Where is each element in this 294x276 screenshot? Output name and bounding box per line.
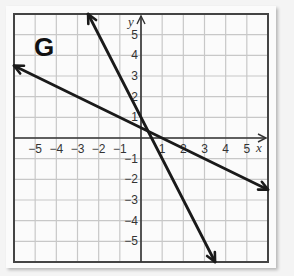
coordinate-plane: −5−4−3−2−11234554321−1−2−3−4−5 G x y (0, 0, 294, 276)
x-tick-label: 5 (243, 142, 250, 156)
y-axis-label: y (126, 14, 134, 29)
y-tick-label: −5 (124, 234, 138, 248)
y-tick-label: −1 (124, 152, 138, 166)
x-tick-label: 3 (201, 142, 208, 156)
y-tick-label: 5 (131, 28, 138, 42)
y-tick-label: −3 (124, 193, 138, 207)
y-tick-label: 3 (131, 69, 138, 83)
y-tick-label: 4 (131, 48, 138, 62)
x-tick-label: −3 (71, 142, 85, 156)
x-tick-label: −4 (49, 142, 63, 156)
x-tick-label: −2 (92, 142, 106, 156)
y-tick-label: −4 (124, 214, 138, 228)
y-tick-label: −2 (124, 172, 138, 186)
x-axis-label: x (255, 140, 262, 155)
x-tick-label: −5 (28, 142, 42, 156)
x-tick-label: 4 (222, 142, 229, 156)
panel-label: G (34, 32, 54, 62)
